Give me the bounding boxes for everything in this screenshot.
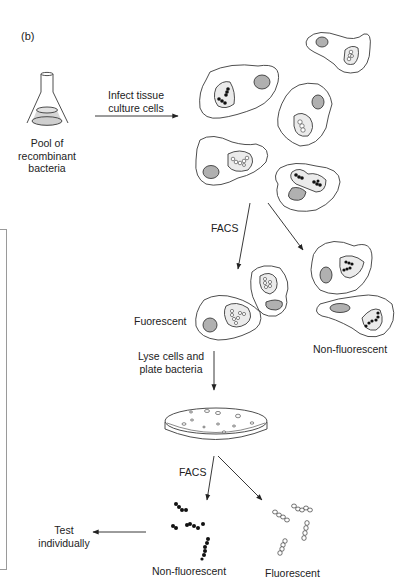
fluorescent-bacteria	[273, 504, 313, 555]
infect-label: Infect tissue culture cells	[100, 89, 172, 114]
pool-label-line3: bacteria	[10, 162, 84, 175]
non-fluorescent-bacteria-label: Non-fluorescent	[152, 565, 226, 578]
pool-label-line2: recombinant	[10, 150, 84, 163]
sorted-fluorescent-cells	[196, 266, 288, 340]
lyse-label-line2: plate bacteria	[134, 363, 208, 376]
facs-label-2: FACS	[179, 466, 206, 479]
lyse-label-line1: Lyse cells and	[134, 350, 208, 363]
pool-label-line1: Pool of	[10, 137, 84, 150]
facs-arrow-fluorescent-bacteria	[218, 456, 262, 500]
diagram-graphics	[0, 0, 414, 585]
infected-cells-cluster	[196, 32, 371, 211]
infect-label-line2: culture cells	[100, 102, 172, 115]
sorted-non-fluorescent-cells	[311, 241, 394, 336]
pool-label: Pool of recombinant bacteria	[10, 137, 84, 175]
cell-fluorescent-3	[196, 136, 268, 185]
flask-icon	[27, 72, 68, 126]
test-label-line2: individually	[34, 537, 94, 550]
petri-dish-icon	[165, 408, 267, 440]
lyse-label: Lyse cells and plate bacteria	[134, 350, 208, 375]
cell-non-fluorescent-2	[275, 163, 340, 211]
fluorescent-bacteria-label: Fluorescent	[265, 567, 320, 580]
infect-label-line1: Infect tissue	[100, 89, 172, 102]
non-fluorescent-bacteria	[171, 502, 210, 561]
panel-label: (b)	[21, 30, 34, 43]
fluorescent-cells-label: Fuorescent	[134, 315, 187, 328]
non-fluorescent-cells-label: Non-fluorescent	[313, 343, 387, 356]
cell-fluorescent-2	[278, 83, 332, 146]
facs-arrow-non-fluorescent-bacteria	[207, 456, 214, 500]
facs-screening-diagram: (b) Pool of recombinant bacteria Infect …	[0, 0, 414, 585]
test-label: Test individually	[34, 524, 94, 549]
cell-fluorescent-1	[306, 32, 370, 73]
facs-arrow-fluorescent	[238, 203, 250, 269]
facs-label-1: FACS	[211, 222, 238, 235]
cell-non-fluorescent-1	[200, 65, 279, 118]
test-label-line1: Test	[34, 524, 94, 537]
